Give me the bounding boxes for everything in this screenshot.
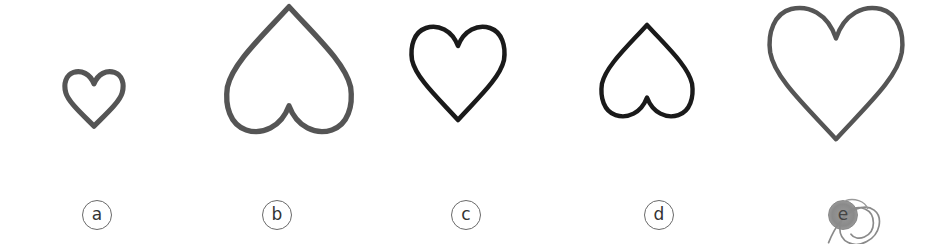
heart-icon: [222, 2, 356, 140]
heart-e-upright-large: [766, 2, 906, 142]
heart-d-inverted-medium: [598, 22, 696, 122]
heart-a-upright-small: [62, 66, 126, 130]
option-letter: d: [654, 206, 665, 223]
heart-icon: [408, 22, 508, 122]
option-label-d[interactable]: d: [644, 200, 674, 230]
heart-icon: [598, 22, 696, 122]
option-label-e-selected[interactable]: e: [828, 200, 858, 230]
option-label-a[interactable]: a: [82, 200, 112, 230]
heart-c-upright-medium: [408, 22, 508, 122]
option-letter: e: [838, 206, 848, 223]
heart-icon: [766, 2, 906, 142]
option-label-c[interactable]: c: [451, 200, 481, 230]
option-letter: a: [92, 206, 102, 223]
option-label-b[interactable]: b: [262, 200, 292, 230]
heart-b-inverted-large: [222, 2, 356, 140]
heart-icon: [62, 66, 126, 130]
option-letter: c: [461, 206, 470, 223]
option-letter: b: [272, 206, 283, 223]
